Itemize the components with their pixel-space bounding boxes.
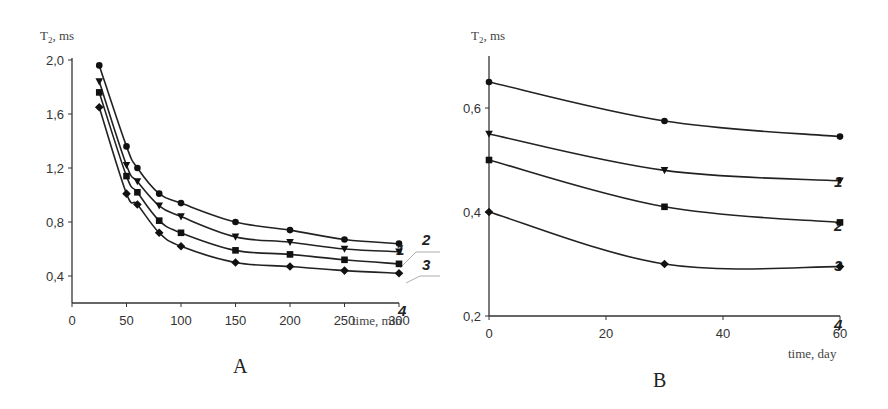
series-label: 4 (833, 316, 843, 333)
x-tick-label: 20 (599, 326, 613, 341)
y-tick-label: 1,2 (46, 161, 64, 176)
y-tick-label: 0,8 (46, 215, 64, 230)
chart-b: 02040600,20,40,61234 (463, 56, 847, 341)
chart-b-x-axis-label: time, day (788, 346, 837, 361)
series-4: 4 (95, 103, 407, 319)
chart-a: 0501001502002503000,40,81,21,62,01234 (46, 53, 440, 328)
x-tick-label: 150 (225, 313, 247, 328)
chart-a-y-axis-label: T2, ms (40, 28, 74, 45)
y-tick-label: 0,4 (463, 205, 481, 220)
series-3: 3 (486, 157, 844, 274)
series-2: 2 (95, 78, 440, 268)
y-tick-label: 2,0 (46, 53, 64, 68)
series-3: 3 (96, 89, 440, 283)
series-label: 2 (421, 231, 431, 248)
chart-b-panel-label: B (653, 369, 666, 391)
chart-a-panel-label: A (233, 355, 248, 377)
x-tick-label: 200 (279, 313, 301, 328)
x-tick-label: 0 (68, 313, 75, 328)
y-tick-label: 0,4 (46, 269, 64, 284)
series-label: 3 (422, 256, 431, 273)
series-2: 2 (485, 131, 844, 234)
chart-b-y-axis-label: T2, ms (471, 28, 505, 45)
y-tick-label: 0,2 (463, 309, 481, 324)
figure: 0501001502002503000,40,81,21,62,01234 T2… (0, 0, 888, 409)
chart-a-x-axis-label: time, min (352, 313, 402, 328)
x-tick-label: 100 (170, 313, 192, 328)
x-tick-label: 50 (119, 313, 133, 328)
series-1: 1 (96, 62, 404, 258)
y-tick-label: 0,6 (463, 101, 481, 116)
x-tick-label: 40 (716, 326, 730, 341)
x-tick-label: 0 (485, 326, 492, 341)
y-tick-label: 1,6 (46, 107, 64, 122)
series-4: 4 (485, 208, 845, 333)
